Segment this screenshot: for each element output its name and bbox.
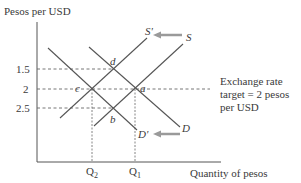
supply-curve-s — [94, 44, 183, 126]
target-annotation-line-2: target = 2 pesos — [220, 88, 289, 100]
point-d: d — [110, 55, 116, 67]
label-s: S — [186, 31, 192, 43]
target-annotation-line-1: Exchange rate — [220, 75, 283, 87]
y-tick-1-5: 1.5 — [16, 63, 30, 75]
label-s-prime: S' — [145, 25, 154, 37]
point-c: c — [75, 82, 80, 94]
supply-demand-diagram: Pesos per USD Quantity of pesos 1.5 2 2.… — [0, 0, 301, 183]
y-tick-2: 2 — [23, 83, 29, 95]
x-axis-label: Quantity of pesos — [190, 167, 268, 179]
x-tick-q1: Q1 — [129, 165, 141, 180]
label-d-prime: D' — [137, 128, 149, 140]
label-d: D — [181, 122, 190, 134]
point-b: b — [110, 113, 116, 125]
x-tick-q2: Q2 — [86, 165, 98, 180]
demand-shift-arrow-icon — [153, 131, 180, 138]
target-annotation-line-3: per USD — [220, 101, 259, 113]
supply-curve-s-prime — [60, 38, 147, 118]
supply-shift-arrow-icon — [153, 32, 182, 39]
y-tick-2-5: 2.5 — [16, 102, 30, 114]
y-axis-label: Pesos per USD — [4, 5, 71, 17]
point-a: a — [140, 82, 146, 94]
